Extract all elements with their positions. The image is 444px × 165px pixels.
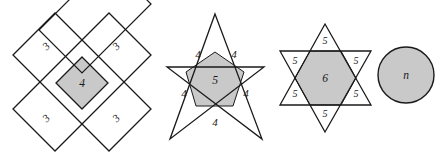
label-arm-bottom-left-3: 3 (39, 111, 52, 124)
figure-circle: n (368, 0, 444, 165)
label-point-left-4: 4 (181, 87, 187, 99)
label-point-top-5: 5 (323, 35, 328, 46)
figure-hexagram: 6 5 5 5 5 5 5 (273, 0, 378, 165)
label-point-lower-left-5: 5 (293, 88, 298, 99)
label-point-bottom-5: 5 (323, 108, 328, 119)
label-point-right-4: 4 (243, 87, 249, 99)
figure-pentagram: 5 4 4 4 4 4 (158, 0, 278, 165)
label-center-n: n (403, 69, 409, 81)
label-point-upper-left-5: 5 (293, 55, 298, 66)
label-arm-top-right-3: 3 (109, 39, 122, 52)
label-center-6: 6 (322, 72, 328, 84)
label-center-5: 5 (212, 74, 218, 86)
label-arm-bottom-right-3: 3 (109, 111, 122, 124)
label-center-4: 4 (79, 77, 85, 89)
figure-crossed-rectangles: 4 3 3 3 3 (0, 0, 160, 165)
rectangle-nw-se (39, 0, 151, 73)
label-point-upper-right-4: 4 (231, 48, 237, 60)
figure-board: 4 3 3 3 3 5 4 4 4 4 4 6 5 5 5 (0, 0, 444, 165)
label-point-bottom-4: 4 (212, 116, 218, 128)
label-point-upper-right-5: 5 (354, 55, 359, 66)
label-point-upper-left-4: 4 (195, 48, 201, 60)
label-point-lower-right-5: 5 (354, 88, 359, 99)
